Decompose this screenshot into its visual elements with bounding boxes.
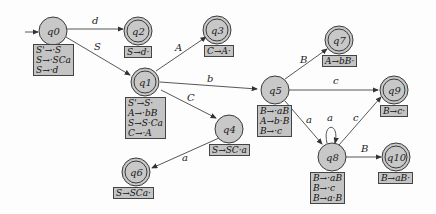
edge-q5-q9: c [289,75,378,90]
svg-text:q5: q5 [269,85,282,96]
item: B→·c [260,126,289,136]
svg-text:q1: q1 [139,77,152,88]
svg-text:B: B [360,143,368,154]
item: B→·c [313,183,342,193]
svg-text:c: c [333,75,339,86]
edge-q1-q5: b [160,73,257,89]
state-q8: q8 [318,143,346,171]
svg-text:q2: q2 [132,26,145,37]
edge-q8-q9: c [339,97,381,145]
state-q0: q0 [39,17,67,45]
item: A→·bB [128,108,163,118]
items-q2: S→d· [124,46,152,58]
edge-q0-q2: d [66,15,123,29]
edge-q8-q8-loop: a [326,112,336,143]
svg-text:q8: q8 [326,152,339,163]
item: C→·A [128,128,163,138]
items-q0: S'→·S S→·SCa S→·d [33,44,74,76]
svg-text:a: a [327,112,333,123]
svg-text:q10: q10 [387,152,407,163]
state-q9: q9 [380,76,408,104]
svg-text:a: a [182,152,188,163]
items-q4: S→SC·a [209,144,250,156]
svg-text:S: S [94,41,101,52]
state-q3: q3 [203,16,231,44]
state-q4: q4 [215,115,243,143]
items-q9: B→c· [380,105,408,117]
state-q7: q7 [325,26,353,54]
edge-q0-q1: S [66,37,130,75]
item: B→aB· [381,173,410,183]
svg-text:b: b [207,73,213,84]
item: S'→S· [128,98,163,108]
item: S→SCa· [116,188,151,198]
svg-text:B: B [299,54,307,65]
svg-text:q4: q4 [223,124,236,135]
svg-text:q7: q7 [333,35,346,46]
items-q8: B→·aB B→·c B→a·B [310,172,345,204]
svg-text:q3: q3 [211,25,224,36]
svg-text:q9: q9 [388,85,401,96]
item: S→·SCa [36,55,71,65]
svg-text:A: A [174,42,182,53]
item: S→·d [36,65,71,75]
edge-q8-q10: B [346,143,381,157]
state-q6: q6 [122,158,150,186]
item: S→SC·a [212,145,247,155]
automaton-diagram: d S A b C a B c [0,0,436,214]
item: A→bB· [325,56,354,66]
item: S'→·S [36,45,71,55]
item: S→S·Ca [128,118,163,128]
edge-q1-q4: C [161,90,216,118]
item: B→·aB [260,106,289,116]
diagram-graphics: d S A b C a B c [0,0,436,214]
svg-text:d: d [92,15,98,26]
edge-q5-q7: B [285,49,327,79]
state-q5: q5 [261,76,289,104]
items-q5: B→·aB A→b·B B→·c [257,105,292,137]
state-q1: q1 [131,68,159,96]
items-q6: S→SCa· [113,187,154,199]
items-q3: C→A· [204,45,234,57]
item: A→b·B [260,116,289,126]
item: S→d· [127,47,149,57]
svg-text:q0: q0 [47,26,60,37]
item: C→A· [207,46,231,56]
edge-q1-q3: A [156,37,206,71]
svg-text:c: c [353,112,359,123]
svg-text:a: a [306,114,312,125]
item: B→a·B [313,193,342,203]
items-q7: A→bB· [322,55,357,67]
state-q2: q2 [124,17,152,45]
svg-text:C: C [187,92,195,103]
item: B→·aB [313,173,342,183]
svg-text:q6: q6 [130,167,143,178]
items-q1: S'→S· A→·bB S→S·Ca C→·A [125,97,166,139]
item: B→c· [383,106,405,116]
state-q10: q10 [382,143,410,171]
items-q10: B→aB· [378,172,413,184]
